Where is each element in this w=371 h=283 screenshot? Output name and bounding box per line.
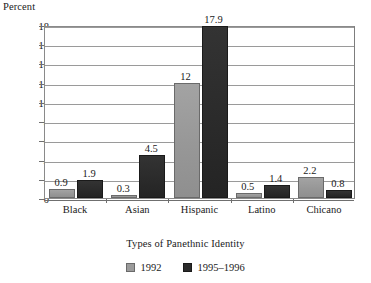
legend-label: 1995–1996 [197,262,244,273]
bar [139,155,165,198]
bar-value-label: 1.4 [269,173,282,184]
x-axis-title: Types of Panethnic Identity [0,238,371,249]
legend-label: 1992 [140,262,161,273]
legend-entry: 1995–1996 [183,262,244,273]
x-axis-category-label: Latino [248,204,275,215]
x-axis-tick-mark [231,199,232,203]
bar-value-label: 12 [180,71,191,82]
y-axis-tick-mark [39,199,44,200]
x-axis-category-label: Asian [125,204,150,215]
legend-entry: 1992 [126,262,161,273]
x-axis-category-label: Black [63,204,88,215]
bar [174,83,200,198]
bar-value-label: 0.3 [117,183,130,194]
gridline [45,200,354,201]
bar [236,193,262,198]
bar-value-label: 1.9 [83,168,96,179]
bar [49,189,75,198]
bar-value-label: 0.8 [331,178,344,189]
bar [77,180,103,198]
bar [202,26,228,198]
y-axis-title: Percent [3,1,35,12]
x-axis-tick-mark [106,199,107,203]
legend: 19921995–1996 [0,262,371,273]
bar-chart-figure: Percent 024681012141618 0.91.90.34.51217… [0,0,371,283]
bar [326,190,352,198]
bar-value-label: 0.5 [241,181,254,192]
bar-value-label: 17.9 [204,14,222,25]
bar-value-label: 4.5 [145,143,158,154]
bar-value-label: 0.9 [55,177,68,188]
legend-swatch-icon [183,263,192,272]
x-axis-tick-mark [168,199,169,203]
x-axis-tick-mark [293,199,294,203]
bar [111,195,137,198]
bar [298,177,324,198]
bar-value-label: 2.2 [303,165,316,176]
legend-swatch-icon [126,263,135,272]
bar [264,185,290,198]
x-axis-category-label: Chicano [306,204,341,215]
x-axis-category-label: Hispanic [181,204,218,215]
